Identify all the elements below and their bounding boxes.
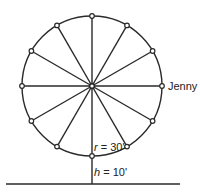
spoke xyxy=(92,25,127,86)
seat-node xyxy=(55,144,60,149)
spoke xyxy=(31,86,92,121)
hub xyxy=(90,84,95,89)
height-label: h = 10' xyxy=(94,166,127,178)
seat-node xyxy=(125,23,130,28)
seat-node xyxy=(90,154,95,159)
rider-label-jenny: Jenny xyxy=(168,80,198,92)
seat-node xyxy=(150,119,155,124)
spoke xyxy=(57,25,92,86)
seat-node xyxy=(150,49,155,54)
spoke xyxy=(92,51,153,86)
seat-node xyxy=(160,84,165,89)
spoke xyxy=(57,86,92,147)
radius-value: = 30' xyxy=(98,141,125,153)
seat-node xyxy=(125,144,130,149)
spoke xyxy=(92,86,153,121)
ferris-wheel-diagram: Jenny r = 30' h = 10' xyxy=(0,0,200,194)
wheel xyxy=(6,16,180,184)
radius-label: r = 30' xyxy=(94,141,125,153)
spoke xyxy=(92,86,127,147)
height-value: = 10' xyxy=(100,166,127,178)
seat-node xyxy=(20,84,25,89)
spoke xyxy=(31,51,92,86)
seat-node xyxy=(55,23,60,28)
seat-node xyxy=(90,14,95,19)
seat-node xyxy=(29,49,34,54)
seat-node xyxy=(29,119,34,124)
